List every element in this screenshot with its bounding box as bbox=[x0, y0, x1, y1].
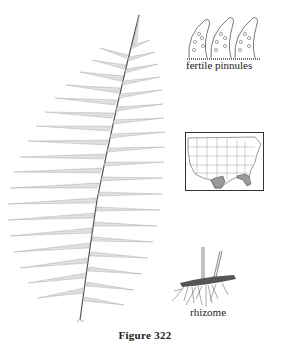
fertile-pinnules-illustration bbox=[185, 14, 265, 60]
range-map bbox=[185, 132, 264, 191]
fern-frond-illustration bbox=[0, 0, 175, 330]
figure-caption: Figure 322 bbox=[0, 329, 290, 341]
fertile-pinnules-label: fertile pinnules bbox=[186, 59, 252, 71]
rhizome-label: rhizome bbox=[190, 306, 226, 318]
illustrator-signature: B.M. bbox=[77, 319, 84, 323]
rhizome-illustration bbox=[172, 245, 252, 307]
